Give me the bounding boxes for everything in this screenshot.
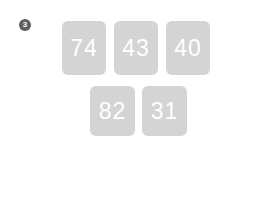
number-card-value: 82 — [90, 100, 135, 123]
question-number-badge: 3 — [19, 19, 31, 31]
number-card[interactable]: 40 — [166, 21, 210, 75]
exercise-panel: 3 74 43 40 82 31 + = — [0, 0, 253, 223]
number-card[interactable]: 82 — [90, 86, 135, 136]
number-card[interactable]: 74 — [62, 21, 106, 75]
number-card-value: 40 — [166, 37, 210, 60]
number-card[interactable]: 43 — [114, 21, 158, 75]
number-card-value: 74 — [62, 37, 106, 60]
number-card[interactable]: 31 — [142, 86, 187, 136]
equation-row: + = — [0, 160, 253, 210]
number-card-value: 43 — [114, 37, 158, 60]
number-card-value: 31 — [142, 100, 187, 123]
